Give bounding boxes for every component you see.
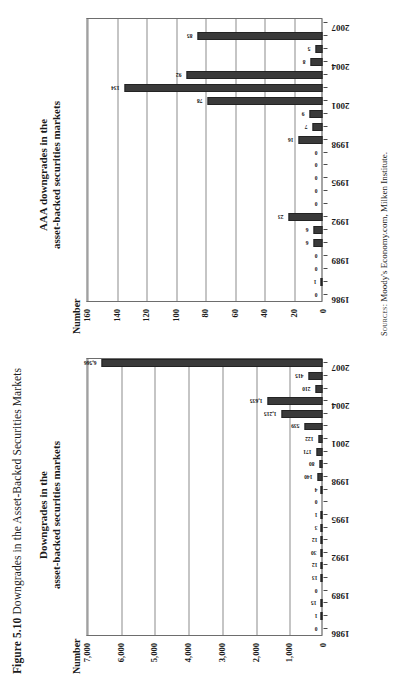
- bar-value-label: 1,635: [249, 398, 262, 404]
- y-tick-label: 4,000: [182, 643, 192, 662]
- bar-value-label: 0: [314, 266, 317, 272]
- x-tick: [323, 514, 327, 515]
- source-prefix: Sources:: [379, 304, 388, 336]
- x-tick: [323, 451, 327, 452]
- panel-downgrades-title-line1: Downgrades in the: [36, 350, 49, 680]
- x-tick: [323, 229, 327, 230]
- bar-2005: [315, 385, 322, 393]
- x-tick: [323, 463, 327, 464]
- bar-value-label: 0: [314, 292, 317, 298]
- bar-1992: [288, 213, 322, 221]
- bar-value-label: 16: [288, 137, 294, 143]
- y-tick-label: 160: [81, 309, 91, 322]
- x-tick: [323, 501, 327, 502]
- x-tick: [323, 22, 327, 23]
- bar-1999: [319, 461, 322, 469]
- panel-aaa-title-line2: asset-backed securities markets: [49, 10, 62, 340]
- x-tick-label: 1989: [331, 591, 349, 601]
- bar-value-label: 0: [314, 162, 317, 168]
- x-tick: [323, 375, 327, 376]
- x-tick-label: 1998: [331, 140, 349, 150]
- y-tick-label: 0: [317, 309, 327, 313]
- panel-downgrades-title-line2: asset-backed securities markets: [49, 350, 62, 680]
- bar-value-label: 12: [311, 537, 317, 543]
- y-tick-label: 3,000: [216, 643, 226, 662]
- bar-value-label: 0: [314, 201, 317, 207]
- x-tick: [323, 565, 327, 566]
- bar-value-label: 134: [111, 85, 119, 91]
- x-tick: [323, 242, 327, 243]
- x-tick: [323, 413, 327, 414]
- x-tick-label: 2007: [331, 363, 349, 373]
- y-tick-label: 5,000: [148, 643, 158, 662]
- bar-1995: [320, 511, 322, 519]
- x-tick: [323, 87, 327, 88]
- bar-2004: [267, 397, 322, 405]
- bar-value-label: 23: [277, 214, 283, 220]
- bar-value-label: 12: [311, 563, 317, 569]
- x-tick-label: 1986: [331, 295, 349, 305]
- x-tick: [323, 294, 327, 295]
- figure-number: Figure 5.10: [10, 618, 22, 674]
- bar-value-label: 1,215: [263, 411, 276, 417]
- bar-value-label: 7: [304, 124, 307, 130]
- x-tick: [323, 203, 327, 204]
- bar-2006: [197, 32, 322, 40]
- y-tick-label: 40: [258, 309, 268, 318]
- bar-value-label: 0: [314, 588, 317, 594]
- bar-value-label: 1: [314, 613, 317, 619]
- bar-1992: [320, 549, 322, 557]
- bar-value-label: 415: [295, 373, 303, 379]
- x-tick: [323, 489, 327, 490]
- bar-1998: [317, 473, 322, 481]
- gridline: [121, 359, 122, 635]
- bar-value-label: 171: [303, 449, 311, 455]
- bar-1994: [320, 524, 322, 532]
- x-tick: [323, 216, 327, 217]
- bar-2002: [304, 423, 322, 431]
- bar-value-label: 85: [186, 33, 192, 39]
- bar-1990: [320, 574, 322, 582]
- gridline: [235, 19, 236, 301]
- bar-value-label: 78: [196, 98, 202, 104]
- bar-2001: [207, 97, 322, 105]
- bar-value-label: 6,566: [83, 360, 96, 366]
- gridline: [87, 19, 88, 301]
- bar-value-label: 92: [176, 72, 182, 78]
- bar-value-label: 0: [314, 626, 317, 632]
- gridline: [188, 359, 189, 635]
- bar-value-label: 8: [302, 59, 305, 65]
- bar-2000: [309, 110, 322, 118]
- bar-value-label: 1: [313, 279, 316, 285]
- panel-downgrades-title: Downgrades in the asset-backed securitie…: [36, 350, 62, 680]
- bar-2002: [124, 84, 322, 92]
- bar-value-label: 0: [314, 499, 317, 505]
- bar-value-label: 0: [314, 188, 317, 194]
- x-tick: [323, 113, 327, 114]
- bar-1998: [298, 136, 322, 144]
- x-tick: [323, 139, 327, 140]
- bar-value-label: 6: [305, 227, 308, 233]
- x-tick: [323, 281, 327, 282]
- x-tick: [323, 152, 327, 153]
- bar-value-label: 30: [310, 550, 316, 556]
- x-tick-label: 2004: [331, 62, 349, 72]
- bar-2005: [315, 45, 322, 53]
- bar-value-label: 0: [314, 175, 317, 181]
- panel-downgrades: Downgrades in the asset-backed securitie…: [36, 350, 366, 680]
- bar-2006: [308, 372, 322, 380]
- x-tick: [323, 388, 327, 389]
- bar-2003: [186, 71, 322, 79]
- bar-1999: [312, 123, 322, 131]
- bar-1993: [320, 536, 322, 544]
- y-tick-label: 6,000: [115, 643, 125, 662]
- y-tick-label: 60: [229, 309, 239, 318]
- bar-value-label: 210: [302, 386, 310, 392]
- bar-value-label: 539: [290, 424, 298, 430]
- panel-aaa-downgrades: AAA downgrades in the asset-backed secur…: [36, 10, 366, 340]
- source-text: Moody's Economy.com, Milken Institute.: [378, 152, 388, 302]
- x-tick-label: 1998: [331, 477, 349, 487]
- source-note: Sources: Moody's Economy.com, Milken Ins…: [378, 152, 388, 336]
- x-tick: [323, 527, 327, 528]
- bar-2007: [101, 359, 322, 367]
